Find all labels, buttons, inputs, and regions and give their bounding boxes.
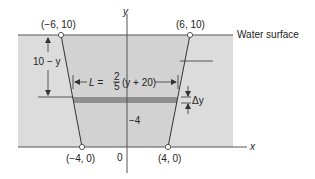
label-tick: −4 bbox=[129, 115, 141, 126]
point-bottom-left bbox=[79, 144, 84, 149]
label-fraction-denominator: 5 bbox=[114, 81, 120, 92]
horizontal-strip bbox=[73, 97, 178, 103]
label-water-surface: Water surface bbox=[237, 29, 299, 40]
label-x-axis: x bbox=[249, 141, 256, 152]
label-origin: 0 bbox=[117, 152, 123, 163]
label-bottom-left-point: (−4, 0) bbox=[66, 153, 95, 164]
label-depth: 10 − y bbox=[33, 56, 61, 67]
figure: (−6, 10) (6, 10) (−4, 0) (4, 0) 0 y x Wa… bbox=[0, 0, 315, 179]
label-top-left-point: (−6, 10) bbox=[41, 19, 76, 30]
label-y-axis: y bbox=[122, 6, 129, 17]
label-top-right-point: (6, 10) bbox=[176, 19, 205, 30]
point-bottom-right bbox=[165, 144, 170, 149]
point-top-right bbox=[187, 32, 192, 37]
label-bottom-right-point: (4, 0) bbox=[158, 153, 181, 164]
label-length-suffix: (y + 20) bbox=[122, 77, 156, 88]
label-delta-y: Δy bbox=[192, 95, 204, 106]
point-top-left bbox=[58, 32, 63, 37]
plate-region bbox=[61, 35, 190, 147]
label-length-prefix: L = bbox=[89, 77, 103, 88]
